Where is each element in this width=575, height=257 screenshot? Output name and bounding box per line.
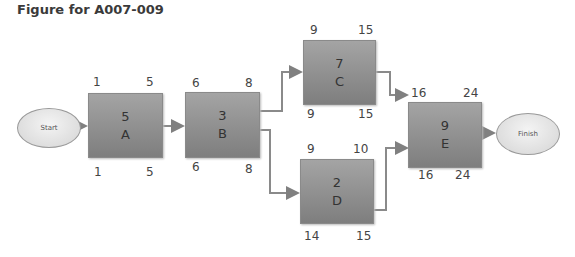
- task-a-node: 5 A: [88, 93, 163, 158]
- task-d-name: D: [332, 192, 342, 210]
- finish-node: Finish: [496, 113, 560, 155]
- task-e-ef: 24: [463, 86, 478, 100]
- network-edges: [0, 0, 575, 257]
- task-e-node: 9 E: [408, 102, 482, 168]
- start-node: Start: [17, 108, 81, 148]
- task-b-duration: 3: [218, 107, 226, 125]
- task-e-name: E: [441, 135, 449, 153]
- task-c-name: C: [335, 73, 344, 91]
- task-a-ls: 1: [94, 165, 102, 179]
- task-b-lf: 8: [245, 162, 253, 176]
- task-e-ls: 16: [418, 168, 433, 182]
- task-d-node: 2 D: [300, 159, 374, 224]
- finish-label: Finish: [518, 130, 538, 138]
- task-a-name: A: [121, 126, 130, 144]
- task-a-es: 1: [93, 75, 101, 89]
- task-a-ef: 5: [146, 75, 154, 89]
- task-b-ls: 6: [192, 160, 200, 174]
- task-b-node: 3 B: [185, 92, 260, 158]
- task-c-node: 7 C: [303, 40, 376, 105]
- task-d-lf: 15: [356, 229, 371, 243]
- task-c-ef: 15: [358, 23, 373, 37]
- task-b-ef: 8: [245, 76, 253, 90]
- task-d-ef: 10: [353, 142, 368, 156]
- task-d-es: 9: [307, 142, 315, 156]
- task-b-name: B: [218, 125, 227, 143]
- task-a-lf: 5: [146, 165, 154, 179]
- task-e-es: 16: [411, 86, 426, 100]
- task-a-duration: 5: [121, 108, 129, 126]
- task-c-es: 9: [310, 23, 318, 37]
- task-b-es: 6: [192, 76, 200, 90]
- task-c-duration: 7: [335, 55, 343, 73]
- task-e-duration: 9: [441, 117, 449, 135]
- task-c-lf: 15: [358, 107, 373, 121]
- task-d-duration: 2: [333, 174, 341, 192]
- start-label: Start: [40, 124, 57, 132]
- task-e-lf: 24: [455, 168, 470, 182]
- task-d-ls: 14: [304, 229, 319, 243]
- task-c-ls: 9: [307, 107, 315, 121]
